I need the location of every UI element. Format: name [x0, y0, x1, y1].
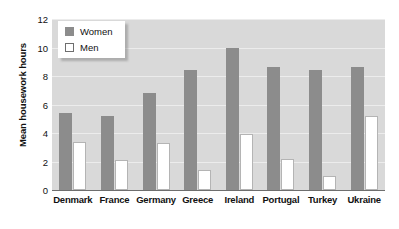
x-tick-label-ukraine: Ukraine: [343, 194, 385, 212]
y-tick-label: 0: [26, 185, 48, 196]
legend-swatch-icon: [65, 43, 74, 52]
legend-label: Women: [80, 26, 113, 37]
legend: WomenMen: [58, 21, 125, 58]
x-tick-label-denmark: Denmark: [52, 194, 94, 212]
x-tick-label-ireland: Ireland: [219, 194, 261, 212]
bar-women-ukraine[interactable]: [351, 67, 364, 190]
bar-men-portugal[interactable]: [281, 159, 294, 190]
bar-group: [226, 19, 253, 190]
bar-women-ireland[interactable]: [226, 48, 239, 191]
bar-men-denmark[interactable]: [73, 142, 86, 190]
bar-men-turkey[interactable]: [323, 176, 336, 190]
bar-group: [143, 19, 170, 190]
bar-women-germany[interactable]: [143, 93, 156, 190]
bar-women-france[interactable]: [101, 116, 114, 190]
bar-men-ireland[interactable]: [240, 134, 253, 190]
bar-women-greece[interactable]: [184, 70, 197, 190]
y-tick-label: 12: [26, 14, 48, 25]
bar-chart: Mean housework hours 024681012 DenmarkFr…: [0, 0, 399, 229]
legend-swatch-icon: [65, 27, 74, 36]
bar-group: [351, 19, 378, 190]
y-tick-label: 2: [26, 156, 48, 167]
bar-men-france[interactable]: [115, 160, 128, 190]
x-tick-label-greece: Greece: [177, 194, 219, 212]
y-axis-tick-labels: 024681012: [26, 12, 48, 198]
legend-label: Men: [80, 42, 98, 53]
x-tick-label-portugal: Portugal: [260, 194, 302, 212]
legend-entry-men[interactable]: Men: [65, 42, 113, 53]
y-tick-label: 6: [26, 99, 48, 110]
y-tick-label: 8: [26, 71, 48, 82]
x-tick-label-france: France: [94, 194, 136, 212]
x-tick-label-germany: Germany: [135, 194, 177, 212]
bar-women-turkey[interactable]: [309, 70, 322, 190]
bar-women-denmark[interactable]: [59, 113, 72, 190]
bar-men-greece[interactable]: [198, 170, 211, 190]
bar-group: [309, 19, 336, 190]
y-tick-label: 4: [26, 128, 48, 139]
x-axis-tick-labels: DenmarkFranceGermanyGreeceIrelandPortuga…: [52, 194, 385, 212]
bar-men-ukraine[interactable]: [365, 116, 378, 190]
x-axis-line: [52, 190, 385, 191]
legend-entry-women[interactable]: Women: [65, 26, 113, 37]
bar-women-portugal[interactable]: [267, 67, 280, 190]
bar-men-germany[interactable]: [157, 143, 170, 190]
x-tick-label-turkey: Turkey: [302, 194, 344, 212]
bar-group: [184, 19, 211, 190]
bar-group: [267, 19, 294, 190]
y-tick-label: 10: [26, 42, 48, 53]
